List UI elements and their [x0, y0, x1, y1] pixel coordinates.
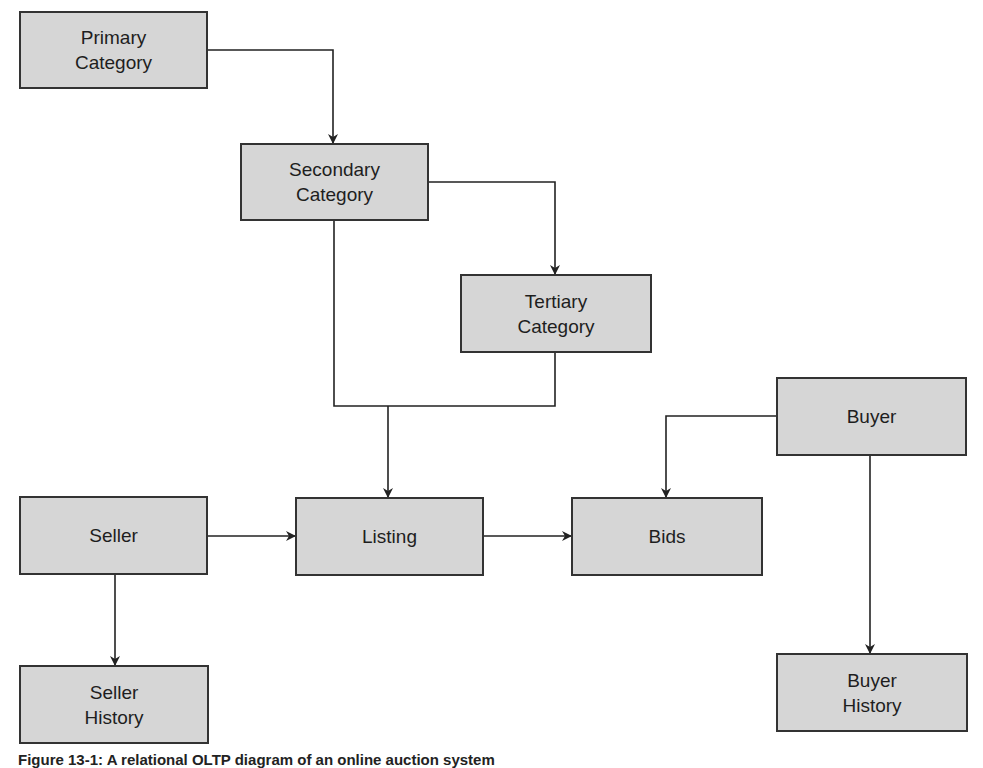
figure-caption: Figure 13-1: A relational OLTP diagram o… [18, 751, 495, 768]
node-seller: Seller [19, 496, 208, 575]
edge-primary-to-secondary [207, 50, 333, 143]
edge-secondary-to-tertiary [428, 182, 555, 274]
node-primary-category: Primary Category [19, 11, 208, 89]
node-buyer: Buyer [776, 377, 967, 456]
node-bids: Bids [571, 497, 763, 576]
node-buyer-history: Buyer History [776, 653, 968, 732]
node-listing: Listing [295, 497, 484, 576]
node-tertiary-category: Tertiary Category [460, 274, 652, 353]
edge-buyer-to-bids [666, 416, 776, 497]
node-secondary-category: Secondary Category [240, 143, 429, 221]
node-seller-history: Seller History [19, 665, 209, 744]
